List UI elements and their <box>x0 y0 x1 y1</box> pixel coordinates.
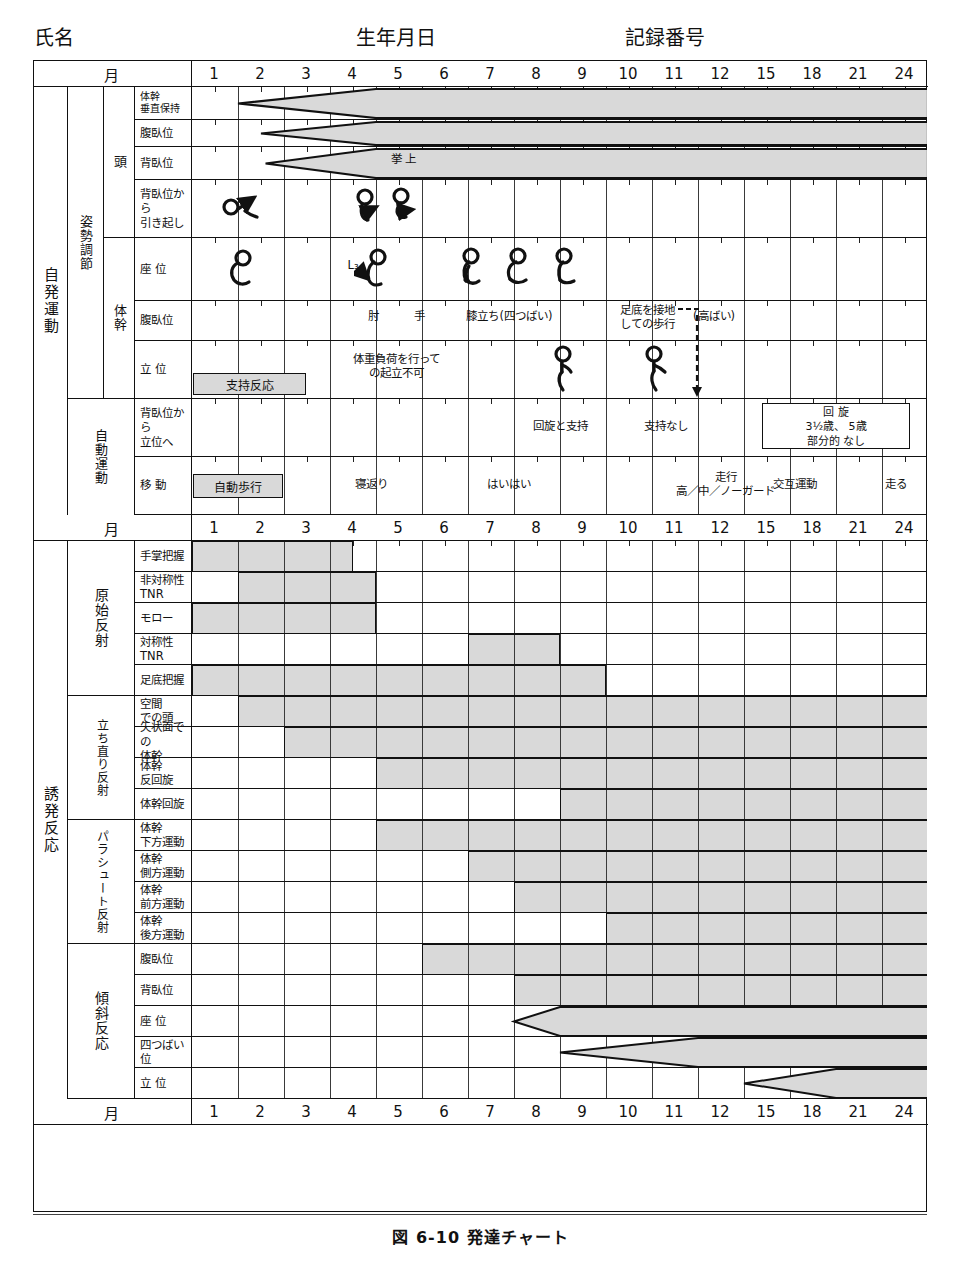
row-label-lower-3-3: 四つばい位 <box>134 1037 191 1068</box>
month-tick-18: 18 <box>789 1099 835 1125</box>
grid-vline <box>422 634 423 664</box>
bar-grid <box>744 790 745 820</box>
row-plot-upper-5: 肘手膝立ち(四つばい)足底を接地しての歩行(高ばい) <box>191 301 927 341</box>
row-label-lower-3-2: 座 位 <box>134 1006 191 1037</box>
grid-halftick <box>859 457 860 462</box>
grid-halftick <box>215 301 216 306</box>
grid-halftick <box>859 301 860 306</box>
grid-vline <box>376 789 377 819</box>
bar-grid <box>744 914 745 944</box>
grid-vline <box>422 789 423 819</box>
row-plot-lower-3-4 <box>191 1068 927 1099</box>
section-label-0-text: 原始反射 <box>92 588 110 648</box>
bar-grid <box>468 759 469 789</box>
bar-grid <box>514 697 515 727</box>
bar-grid <box>744 697 745 727</box>
grid-vline <box>560 180 561 237</box>
row-label-upper-6: 立 位 <box>134 341 191 399</box>
month-tick-3: 3 <box>283 61 329 87</box>
grid-vline <box>284 820 285 850</box>
note-auto-1-4: 走る <box>885 477 907 491</box>
bar-grid <box>606 790 607 820</box>
month-tick-15: 15 <box>743 1099 789 1125</box>
grid-vline <box>652 541 653 571</box>
grid-vline <box>882 603 883 633</box>
grid-halftick <box>537 399 538 404</box>
grid-vline <box>468 603 469 633</box>
bar-grid <box>698 852 699 882</box>
note-2-0: 挙 上 <box>391 152 417 166</box>
grid-vline <box>376 882 377 912</box>
row-plot-lower-3-3 <box>191 1037 927 1068</box>
grid-vline <box>422 572 423 602</box>
group-label-evoked-text: 誘発反応 <box>41 786 60 854</box>
grid-halftick <box>813 301 814 306</box>
row-plot-lower-3-1 <box>191 975 927 1006</box>
bar-lower-2-3 <box>606 913 927 944</box>
grid-halftick <box>491 238 492 243</box>
grid-vline <box>790 603 791 633</box>
grid-vline <box>330 457 331 514</box>
grid-vline <box>330 913 331 943</box>
section-label-3: 傾斜反応 <box>67 944 134 1099</box>
grid-halftick <box>629 399 630 404</box>
grid-halftick <box>859 238 860 243</box>
bar-grid <box>698 914 699 944</box>
grid-halftick <box>399 399 400 404</box>
grid-vline <box>422 457 423 514</box>
bar-grid <box>882 759 883 789</box>
section-label-1: 立ち直り反射 <box>67 696 134 820</box>
month-tick-9: 9 <box>559 61 605 87</box>
grid-vline <box>422 882 423 912</box>
grid-vline <box>284 789 285 819</box>
grid-vline <box>284 758 285 788</box>
bar-grid <box>698 883 699 913</box>
bar-arrow <box>192 1068 927 1099</box>
grid-halftick <box>721 301 722 306</box>
bar-grid <box>422 759 423 789</box>
grid-vline <box>836 572 837 602</box>
grid-vline <box>468 572 469 602</box>
bar-grid <box>606 883 607 913</box>
grid-vline <box>560 301 561 340</box>
row-plot-upper-3 <box>191 180 927 238</box>
grid-halftick <box>445 541 446 546</box>
bar-grid <box>514 945 515 975</box>
row-label-upper-5: 腹臥位 <box>134 301 191 341</box>
grid-vline <box>238 399 239 456</box>
bar-grid <box>514 728 515 758</box>
grid-vline <box>744 238 745 300</box>
grid-vline <box>468 457 469 514</box>
grid-vline <box>284 975 285 1005</box>
row-plot-lower-2-0 <box>191 820 927 851</box>
grid-halftick <box>905 341 906 346</box>
dashed-arrow-icon <box>687 315 707 397</box>
grid-vline <box>468 541 469 571</box>
grid-vline <box>836 603 837 633</box>
grid-halftick <box>905 238 906 243</box>
bar-lower-2-1 <box>468 851 927 882</box>
bar-grid <box>284 542 285 572</box>
month-tick-11: 11 <box>651 515 697 541</box>
grid-vline <box>790 665 791 695</box>
grid-vline <box>284 913 285 943</box>
month-tick-4: 4 <box>329 515 375 541</box>
grid-vline <box>790 238 791 300</box>
month-tick-6: 6 <box>421 61 467 87</box>
subgroup-automatic-movement: 自動運動 <box>67 399 134 515</box>
grid-vline <box>744 180 745 237</box>
month-tick-21: 21 <box>835 1099 881 1125</box>
month-tick-21: 21 <box>835 61 881 87</box>
grid-halftick <box>767 341 768 346</box>
grid-vline <box>330 180 331 237</box>
grid-halftick <box>629 457 630 462</box>
group-label-spontaneous: 自発運動 <box>34 87 67 515</box>
bar-lower-0-2 <box>192 603 376 634</box>
grid-vline <box>422 238 423 300</box>
bar-grid <box>836 883 837 913</box>
row-plot-lower-0-1 <box>191 572 927 603</box>
grid-halftick <box>215 399 216 404</box>
month-tick-1: 1 <box>191 1099 237 1125</box>
grid-vline <box>376 541 377 571</box>
bar-grid <box>652 945 653 975</box>
